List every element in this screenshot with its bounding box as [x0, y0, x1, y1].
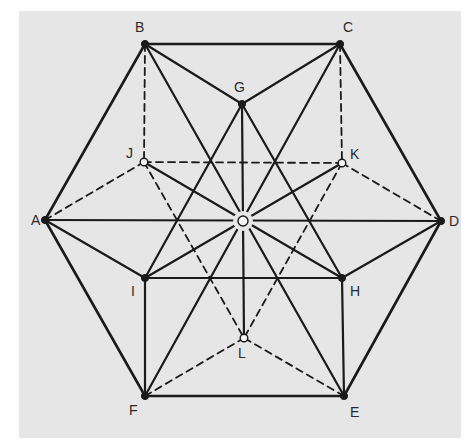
point-J-label: J — [126, 145, 133, 161]
point-E-label: E — [350, 404, 359, 420]
point-B-label: B — [135, 19, 144, 35]
point-G-marker — [238, 100, 245, 107]
point-G-label: G — [234, 79, 245, 95]
point-D-label: D — [449, 213, 459, 229]
point-K-marker — [338, 159, 346, 167]
point-L-label: L — [238, 345, 246, 361]
point-I-marker — [141, 274, 148, 281]
point-B-marker — [141, 40, 148, 47]
point-K-label: K — [350, 146, 360, 162]
point-A-marker — [41, 216, 48, 223]
point-A-label: A — [31, 212, 41, 228]
point-I-label: I — [131, 283, 135, 299]
point-E-marker — [340, 392, 347, 399]
geometry-diagram: ABCDEFGHIJKL — [0, 0, 468, 448]
point-D-marker — [437, 217, 444, 224]
point-H-marker — [338, 274, 345, 281]
point-C-label: C — [343, 19, 353, 35]
point-F-label: F — [129, 402, 138, 418]
point-F-marker — [141, 392, 148, 399]
point-O-marker — [238, 216, 248, 226]
point-C-marker — [336, 40, 343, 47]
point-H-label: H — [350, 283, 360, 299]
point-J-marker — [140, 158, 148, 166]
point-L-marker — [240, 334, 248, 342]
